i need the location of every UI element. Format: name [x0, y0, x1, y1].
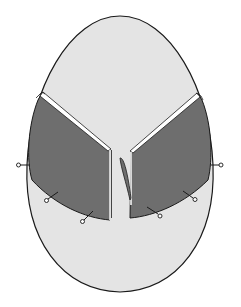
surgical-flap-diagram — [0, 0, 241, 307]
figure-canvas — [0, 0, 241, 307]
